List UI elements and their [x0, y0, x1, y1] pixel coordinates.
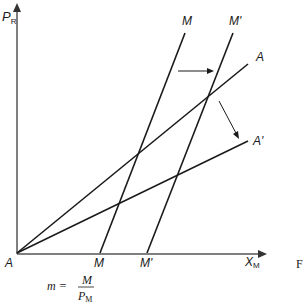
label-A: A — [255, 50, 264, 64]
label-A-prime: A' — [252, 134, 264, 148]
label-M-bottom: M — [94, 256, 104, 270]
origin-label: A — [4, 256, 13, 270]
shift-arrow-M-head-icon — [207, 68, 214, 74]
x-axis-arrow-icon — [258, 250, 267, 258]
y-axis-arrow-icon — [13, 3, 21, 12]
label-M-top: M — [182, 14, 192, 28]
line-M-prime — [147, 33, 233, 253]
label-M-prime-bottom: M' — [140, 256, 153, 270]
x-axis-label: XM — [244, 255, 260, 270]
diagram-canvas: PR M M' A A' A M M' XM F m = M PM — [0, 0, 303, 304]
line-M — [100, 33, 185, 253]
label-M-prime-top: M' — [229, 14, 242, 28]
formula-lhs: m = — [47, 279, 67, 293]
cut-off-text: F — [296, 257, 303, 271]
shift-arrow-A — [219, 101, 237, 135]
formula-numerator: M — [81, 273, 93, 287]
formula-denominator: PM — [77, 289, 92, 304]
